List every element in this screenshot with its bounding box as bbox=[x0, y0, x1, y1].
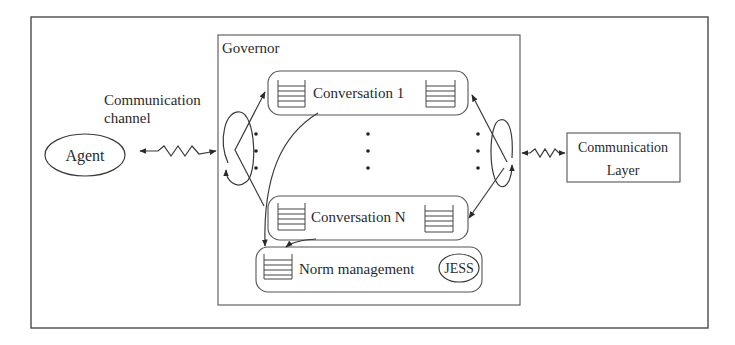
conversation-n-box: Conversation N bbox=[268, 196, 468, 240]
svg-text:Communication: Communication bbox=[104, 92, 201, 108]
layer-channel-link bbox=[522, 149, 565, 157]
agent-node: Agent bbox=[45, 134, 125, 176]
communication-layer-node: Communication Layer bbox=[567, 133, 680, 182]
agent-label: Agent bbox=[65, 147, 105, 165]
conversation-n-label: Conversation N bbox=[311, 209, 406, 225]
jess-label: JESS bbox=[444, 261, 474, 276]
diagram-canvas: Governor Conversation 1 Conversation N bbox=[0, 0, 735, 345]
norm-management-label: Norm management bbox=[299, 261, 415, 277]
svg-text:channel: channel bbox=[104, 110, 151, 126]
svg-text:Communication: Communication bbox=[578, 140, 668, 155]
conversation-1-label: Conversation 1 bbox=[313, 85, 404, 101]
communication-channel-label: Communication channel bbox=[104, 92, 201, 126]
conversation-1-box: Conversation 1 bbox=[268, 71, 468, 115]
svg-text:Layer: Layer bbox=[607, 163, 640, 178]
governor-label: Governor bbox=[222, 40, 279, 56]
norm-management-box: Norm management JESS bbox=[256, 247, 482, 292]
agent-channel-link bbox=[140, 146, 216, 156]
